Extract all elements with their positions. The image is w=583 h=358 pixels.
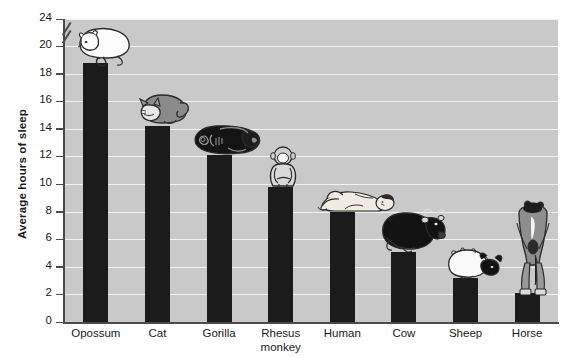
gridline: [65, 212, 558, 213]
sleeping-opossum-illustration: [73, 23, 135, 67]
bar: [83, 63, 108, 322]
y-axis-label: Average hours of sleep: [16, 69, 28, 279]
gridline: [65, 74, 558, 75]
gridline: [65, 294, 558, 295]
y-tick: [56, 266, 63, 268]
bar: [268, 187, 293, 322]
sleeping-rhesus-monkey-illustration: [265, 146, 301, 190]
y-tick: [56, 294, 63, 296]
bar: [330, 212, 355, 322]
gridline: [65, 239, 558, 240]
bar: [515, 293, 540, 322]
y-tick: [56, 322, 63, 324]
y-axis-line: [63, 19, 65, 323]
y-tick: [56, 239, 63, 241]
y-tick: [56, 156, 63, 158]
resting-sheep-illustration: [445, 245, 503, 281]
gridline: [65, 184, 558, 185]
gridline: [65, 156, 558, 157]
x-axis-line: [63, 322, 559, 324]
sleep-hours-bar-chart: Average hours of sleep 02468101214161820…: [0, 0, 583, 358]
y-tick: [56, 128, 63, 130]
gridline: [65, 46, 558, 47]
sleeping-cat-illustration: [134, 89, 192, 129]
bar: [453, 278, 478, 322]
sleeping-gorilla-illustration: [190, 122, 264, 158]
y-tick: [56, 101, 63, 103]
y-tick: [56, 19, 63, 21]
gridline: [65, 19, 558, 20]
y-tick: [56, 184, 63, 186]
standing-horse-illustration: [505, 205, 561, 297]
x-axis-label: Horse: [481, 327, 573, 341]
y-tick: [56, 211, 63, 213]
bar: [207, 155, 232, 322]
bar: [391, 252, 416, 322]
resting-cow-illustration: [379, 204, 449, 256]
bar: [145, 126, 170, 322]
y-tick: [56, 73, 63, 75]
axis-break-mark: [57, 24, 73, 46]
